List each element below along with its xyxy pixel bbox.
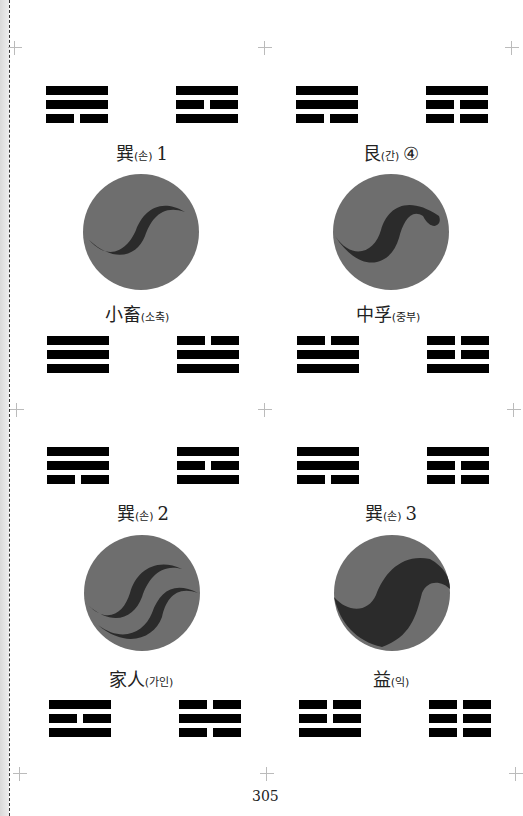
- trigram-line: [427, 350, 489, 359]
- trigram-bottom-right: [427, 336, 489, 374]
- double-s-curve-symbol-icon: [82, 533, 202, 653]
- trigram-line: [47, 336, 109, 345]
- hexagram-hanja: 家人: [109, 669, 145, 690]
- trigram-line: [427, 336, 489, 345]
- trigram-line: [299, 700, 361, 709]
- trigram-line: [297, 475, 359, 484]
- hexagram-hanja: 中孚: [356, 304, 392, 325]
- trigram-top-left: [297, 447, 359, 485]
- trigram-bottom-left: [299, 700, 361, 738]
- trigram-line: [429, 714, 491, 723]
- trigram-line: [179, 700, 241, 709]
- trigram-top-left: [47, 447, 109, 485]
- trigram-line: [427, 364, 489, 373]
- trigram-line: [47, 364, 109, 373]
- trigram-line: [297, 364, 359, 373]
- page-number: 305: [252, 788, 279, 804]
- trigram-bottom-right: [177, 336, 239, 374]
- trigram-line: [429, 700, 491, 709]
- hexagram-hangul: (소축): [141, 311, 170, 324]
- wide-s-curve-symbol-icon: [332, 533, 452, 653]
- trigram-bottom-left: [47, 336, 109, 374]
- hexagram-hangul: (가인): [145, 676, 174, 689]
- trigram-line: [177, 336, 239, 345]
- trigram-line: [297, 461, 359, 470]
- trigram-line: [176, 114, 238, 123]
- crop-mark-icon: [258, 403, 272, 417]
- trigram-line: [49, 700, 111, 709]
- trigram-line: [427, 447, 489, 456]
- trigram-line: [297, 350, 359, 359]
- trigram-line: [426, 86, 488, 95]
- trigram-top-right: [176, 86, 238, 124]
- trigram-bottom-left: [297, 336, 359, 374]
- trigram-line: [177, 475, 239, 484]
- trigram-line: [427, 475, 489, 484]
- trigram-top-left: [296, 86, 358, 124]
- trigram-line: [179, 714, 241, 723]
- title-number: 2: [158, 503, 169, 524]
- hexagram-hangul: (익): [391, 676, 410, 689]
- page-gutter: [0, 0, 9, 816]
- trigram-line: [296, 100, 358, 109]
- s-curve-symbol-icon: [331, 172, 451, 292]
- trigram-line: [297, 447, 359, 456]
- title-hangul: (손): [134, 150, 153, 163]
- title-number: 3: [406, 503, 417, 524]
- hexagram-name: 小畜(소축): [105, 300, 170, 326]
- s-curve-symbol-icon: [81, 172, 201, 292]
- crop-mark-icon: [260, 767, 274, 781]
- trigram-title: 艮(간)④: [363, 139, 420, 165]
- title-hanja: 巽: [117, 503, 135, 524]
- trigram-line: [299, 714, 361, 723]
- hexagram-hangul: (중부): [392, 311, 421, 324]
- crop-mark-icon: [258, 41, 272, 55]
- trigram-line: [177, 364, 239, 373]
- trigram-line: [176, 86, 238, 95]
- hexagram-hanja: 益: [373, 669, 391, 690]
- trigram-line: [49, 714, 111, 723]
- trigram-bottom-right: [179, 700, 241, 738]
- crop-mark-icon: [8, 41, 22, 55]
- trigram-line: [46, 114, 108, 123]
- trigram-top-left: [46, 86, 108, 124]
- trigram-top-right: [427, 447, 489, 485]
- trigram-line: [47, 461, 109, 470]
- trigram-line: [47, 350, 109, 359]
- trigram-line: [49, 728, 111, 737]
- title-hangul: (손): [135, 510, 154, 523]
- trigram-line: [299, 728, 361, 737]
- trigram-line: [296, 86, 358, 95]
- trigram-line: [297, 336, 359, 345]
- title-hanja: 艮: [363, 143, 381, 164]
- trigram-title: 巽(손)2: [117, 499, 169, 525]
- hexagram-name: 益(익): [373, 665, 410, 691]
- crop-mark-icon: [13, 767, 27, 781]
- crop-mark-icon: [509, 767, 523, 781]
- trigram-line: [426, 100, 488, 109]
- trigram-line: [427, 461, 489, 470]
- trigram-line: [429, 728, 491, 737]
- trigram-line: [426, 114, 488, 123]
- hexagram-hanja: 小畜: [105, 304, 141, 325]
- title-hanja: 巽: [116, 143, 134, 164]
- trigram-top-right: [426, 86, 488, 124]
- trigram-top-right: [177, 447, 239, 485]
- trigram-line: [47, 475, 109, 484]
- trigram-line: [177, 461, 239, 470]
- trigram-line: [46, 100, 108, 109]
- title-number: 1: [157, 143, 168, 164]
- trigram-title: 巽(손)3: [365, 499, 417, 525]
- trigram-line: [177, 350, 239, 359]
- title-hangul: (손): [383, 510, 402, 523]
- hexagram-name: 家人(가인): [109, 665, 174, 691]
- trigram-line: [46, 86, 108, 95]
- crop-mark-icon: [505, 41, 519, 55]
- title-hangul: (간): [381, 150, 400, 163]
- trigram-bottom-right: [429, 700, 491, 738]
- trigram-title: 巽(손)1: [116, 139, 168, 165]
- title-hanja: 巽: [365, 503, 383, 524]
- trigram-line: [179, 728, 241, 737]
- trigram-bottom-left: [49, 700, 111, 738]
- trigram-line: [47, 447, 109, 456]
